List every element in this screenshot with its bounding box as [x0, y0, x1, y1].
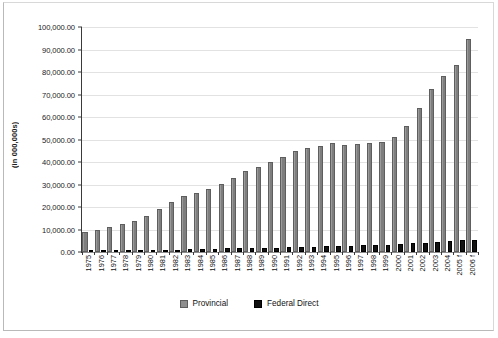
- x-axis-tick-label: 1990: [270, 255, 279, 271]
- bar-federal-direct: [349, 246, 354, 252]
- bar-provincial: [169, 202, 174, 252]
- x-axis-tick: [429, 252, 430, 255]
- x-axis-tick: [330, 252, 331, 255]
- x-axis-tick-label: 1979: [134, 255, 143, 271]
- bar-federal-direct: [472, 240, 477, 252]
- bar-provincial: [305, 148, 310, 252]
- legend-swatch-provincial: [180, 300, 188, 308]
- bar-federal-direct: [299, 247, 304, 252]
- x-axis-tick: [342, 252, 343, 255]
- bar-federal-direct: [213, 249, 218, 252]
- bar-group: [206, 27, 218, 252]
- bar-group: [317, 27, 329, 252]
- x-axis-tick: [144, 252, 145, 255]
- bar-group: [119, 27, 131, 252]
- x-axis-tick: [82, 252, 83, 255]
- bar-federal-direct: [138, 250, 143, 252]
- x-axis-tick-label: 1989: [257, 255, 266, 271]
- x-axis-tick-label: 1981: [158, 255, 167, 271]
- bar-federal-direct: [114, 250, 119, 252]
- bar-provincial: [194, 193, 199, 252]
- bar-federal-direct: [336, 246, 341, 252]
- x-axis-tick-label: 1984: [196, 255, 205, 271]
- bar-group: [441, 27, 453, 252]
- bar-provincial: [342, 145, 347, 252]
- bar-federal-direct: [361, 245, 366, 252]
- bars-layer: [82, 27, 478, 252]
- bar-group: [280, 27, 292, 252]
- legend-label: Federal Direct: [267, 299, 318, 308]
- bar-federal-direct: [101, 250, 106, 252]
- bar-federal-direct: [398, 244, 403, 252]
- bar-provincial: [181, 196, 186, 252]
- bar-federal-direct: [200, 249, 205, 252]
- bar-federal-direct: [312, 247, 317, 252]
- bar-provincial: [280, 157, 285, 252]
- bar-group: [132, 27, 144, 252]
- x-axis-tick: [367, 252, 368, 255]
- bar-federal-direct: [386, 245, 391, 252]
- chart-legend: ProvincialFederal Direct: [0, 299, 498, 308]
- bar-provincial: [206, 189, 211, 252]
- x-axis-tick-label: 2000: [394, 255, 403, 271]
- x-axis-tick: [268, 252, 269, 255]
- x-axis-tick-label: 1995: [332, 255, 341, 271]
- x-axis-tick-label: 1980: [146, 255, 155, 271]
- bar-provincial: [231, 178, 236, 252]
- x-axis-tick: [193, 252, 194, 255]
- x-axis-tick-label: 1987: [233, 255, 242, 271]
- bar-group: [193, 27, 205, 252]
- x-axis-tick-label: 1996: [344, 255, 353, 271]
- plot-area: [82, 27, 478, 252]
- bar-federal-direct: [373, 245, 378, 252]
- x-axis-tick-label: 1999: [381, 255, 390, 271]
- bar-federal-direct: [287, 247, 292, 252]
- x-axis-tick-label: 1991: [282, 255, 291, 271]
- bar-provincial: [392, 137, 397, 252]
- y-axis-tick-label: 100,000.00: [38, 23, 75, 32]
- x-axis-tick-label: 1976: [97, 255, 106, 271]
- x-axis-tick: [441, 252, 442, 255]
- x-axis-tick-label: 1992: [295, 255, 304, 271]
- bar-group: [330, 27, 342, 252]
- bar-group: [94, 27, 106, 252]
- bar-provincial: [107, 227, 112, 252]
- x-axis-tick-label: 1982: [171, 255, 180, 271]
- x-axis-tick-labels: 1975197619771978197919801981198219831984…: [82, 255, 478, 297]
- bar-provincial: [454, 65, 459, 252]
- x-axis-tick: [379, 252, 380, 255]
- x-axis-tick: [391, 252, 392, 255]
- bar-group: [181, 27, 193, 252]
- x-axis-tick: [466, 252, 467, 255]
- bar-provincial: [157, 209, 162, 252]
- bar-group: [231, 27, 243, 252]
- bar-federal-direct: [460, 240, 465, 252]
- bar-group: [292, 27, 304, 252]
- chart-figure: (in 000,000s) 0.0010,000.0020,000.0030,0…: [0, 0, 498, 338]
- bar-provincial: [379, 142, 384, 252]
- x-axis-tick-label: 1978: [121, 255, 130, 271]
- bar-group: [218, 27, 230, 252]
- bar-group: [342, 27, 354, 252]
- bar-federal-direct: [435, 242, 440, 252]
- x-axis-tick-label: 1986: [220, 255, 229, 271]
- bar-provincial: [132, 221, 137, 252]
- bar-group: [429, 27, 441, 252]
- x-axis-tick-label: 2001: [406, 255, 415, 271]
- x-axis-tick-label: 1988: [245, 255, 254, 271]
- bar-group: [144, 27, 156, 252]
- bar-group: [466, 27, 478, 252]
- bar-group: [268, 27, 280, 252]
- y-axis-tick-label: 20,000.00: [42, 203, 75, 212]
- bar-group: [367, 27, 379, 252]
- bar-federal-direct: [175, 250, 180, 252]
- x-axis-tick: [181, 252, 182, 255]
- bar-federal-direct: [448, 241, 453, 252]
- x-axis-tick: [231, 252, 232, 255]
- bar-group: [391, 27, 403, 252]
- bar-provincial: [82, 232, 87, 252]
- bar-provincial: [330, 143, 335, 252]
- bar-group: [169, 27, 181, 252]
- bar-provincial: [293, 151, 298, 252]
- x-axis-tick: [317, 252, 318, 255]
